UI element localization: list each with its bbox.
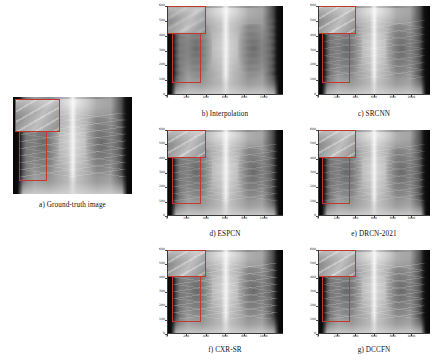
ytick-label: 600 xyxy=(157,4,165,7)
panel-d-espcn: 0 200 400 600 800 1000 600 500 400 300 2… xyxy=(167,130,283,216)
caption-panel-f: f) CXR-SR xyxy=(160,346,290,354)
ytick-label: 100 xyxy=(157,318,165,321)
ytick-label: 500 xyxy=(157,143,165,146)
xtick-label: 0 xyxy=(317,335,319,338)
xtick-label: 400 xyxy=(203,96,209,99)
axes-c: 0 200 400 600 800 1000 600 500 400 300 2… xyxy=(318,6,430,95)
xtick-label: 600 xyxy=(222,335,228,338)
ytick-label: 0 xyxy=(157,214,165,217)
xtick-label: 600 xyxy=(222,217,228,220)
ytick-label: 100 xyxy=(308,200,316,203)
ytick-label: 500 xyxy=(157,262,165,265)
ytick-label: 0 xyxy=(308,214,316,217)
ytick-label: 400 xyxy=(157,34,165,37)
xtick-label: 0 xyxy=(166,217,168,220)
caption-panel-d: d) ESPCN xyxy=(160,230,290,238)
xtick-label: 800 xyxy=(390,335,396,338)
ytick-label: 400 xyxy=(308,157,316,160)
panel-f-cxr-sr: 0 200 400 600 800 1000 600 500 400 300 2… xyxy=(167,250,283,334)
xtick-label: 1000 xyxy=(407,96,415,99)
xtick-label: 0 xyxy=(166,335,168,338)
xtick-label: 200 xyxy=(183,217,189,220)
ytick-label: 300 xyxy=(157,171,165,174)
xtick-label: 400 xyxy=(352,217,358,220)
ytick-label: 200 xyxy=(308,64,316,67)
axes-d: 0 200 400 600 800 1000 600 500 400 300 2… xyxy=(167,130,283,216)
ytick-label: 0 xyxy=(308,93,316,96)
ytick-label: 100 xyxy=(308,79,316,82)
ytick-label: 600 xyxy=(157,128,165,131)
xtick-label: 1000 xyxy=(407,217,415,220)
xtick-label: 1000 xyxy=(407,335,415,338)
ytick-label: 100 xyxy=(308,318,316,321)
xtick-label: 1000 xyxy=(260,217,268,220)
ytick-label: 0 xyxy=(308,332,316,335)
xtick-label: 200 xyxy=(334,217,340,220)
panel-c-srcnn: 0 200 400 600 800 1000 600 500 400 300 2… xyxy=(318,6,430,95)
figure-comparison-grid: a) Ground-truth image 0 200 400 60 xyxy=(0,0,446,362)
ytick-label: 400 xyxy=(157,157,165,160)
ytick-label: 0 xyxy=(157,93,165,96)
axes-f: 0 200 400 600 800 1000 600 500 400 300 2… xyxy=(167,250,283,334)
ytick-label: 300 xyxy=(308,171,316,174)
ytick-label: 500 xyxy=(308,19,316,22)
ytick-label: 300 xyxy=(157,49,165,52)
panel-e-drcn-2021: 0 200 400 600 800 1000 600 500 400 300 2… xyxy=(318,130,430,216)
xtick-label: 800 xyxy=(241,335,247,338)
caption-panel-b: b) Interpolation xyxy=(160,110,290,118)
caption-panel-c: c) SRCNN xyxy=(310,110,438,118)
axes-e: 0 200 400 600 800 1000 600 500 400 300 2… xyxy=(318,130,430,216)
ytick-label: 500 xyxy=(308,262,316,265)
ytick-label: 300 xyxy=(308,49,316,52)
ytick-label: 300 xyxy=(157,290,165,293)
ytick-label: 0 xyxy=(157,332,165,335)
xtick-label: 600 xyxy=(222,96,228,99)
ytick-label: 600 xyxy=(308,128,316,131)
xtick-label: 800 xyxy=(390,217,396,220)
axes-g: 0 200 400 600 800 1000 600 500 400 300 2… xyxy=(318,250,430,334)
axes-b: 0 200 400 600 800 1000 600 500 400 300 2… xyxy=(167,6,283,95)
xtick-label: 200 xyxy=(334,96,340,99)
ytick-label: 200 xyxy=(157,304,165,307)
ytick-label: 200 xyxy=(157,186,165,189)
ytick-label: 400 xyxy=(157,276,165,279)
xtick-label: 400 xyxy=(352,96,358,99)
ytick-label: 100 xyxy=(157,200,165,203)
xtick-label: 400 xyxy=(203,217,209,220)
magnified-inset-a xyxy=(15,99,60,132)
xtick-label: 0 xyxy=(166,96,168,99)
ytick-label: 500 xyxy=(157,19,165,22)
panel-g-dccfn: 0 200 400 600 800 1000 600 500 400 300 2… xyxy=(318,250,430,334)
roi-rectangle-a xyxy=(19,126,48,181)
caption-panel-a: a) Ground-truth image xyxy=(13,201,132,209)
xtick-label: 600 xyxy=(371,335,377,338)
xtick-label: 1000 xyxy=(260,335,268,338)
xtick-label: 0 xyxy=(317,96,319,99)
panel-b-interpolation: 0 200 400 600 800 1000 600 500 400 300 2… xyxy=(167,6,283,95)
xtick-label: 400 xyxy=(352,335,358,338)
ytick-label: 600 xyxy=(157,248,165,251)
xtick-label: 200 xyxy=(183,335,189,338)
xtick-label: 200 xyxy=(183,96,189,99)
ytick-label: 500 xyxy=(308,143,316,146)
xtick-label: 600 xyxy=(371,217,377,220)
ytick-label: 600 xyxy=(308,248,316,251)
xtick-label: 400 xyxy=(203,335,209,338)
ytick-label: 400 xyxy=(308,34,316,37)
xtick-label: 600 xyxy=(371,96,377,99)
ytick-label: 600 xyxy=(308,4,316,7)
ytick-label: 200 xyxy=(308,186,316,189)
xtick-label: 200 xyxy=(334,335,340,338)
ytick-label: 200 xyxy=(308,304,316,307)
ytick-label: 200 xyxy=(157,64,165,67)
panel-a-ground-truth xyxy=(13,97,132,194)
ytick-label: 300 xyxy=(308,290,316,293)
caption-panel-g: g) DCCFN xyxy=(310,346,438,354)
ytick-label: 100 xyxy=(157,79,165,82)
ytick-label: 400 xyxy=(308,276,316,279)
xtick-label: 0 xyxy=(317,217,319,220)
xtick-label: 800 xyxy=(241,217,247,220)
xtick-label: 800 xyxy=(390,96,396,99)
xtick-label: 800 xyxy=(241,96,247,99)
caption-panel-e: e) DRCN-2021 xyxy=(310,230,438,238)
